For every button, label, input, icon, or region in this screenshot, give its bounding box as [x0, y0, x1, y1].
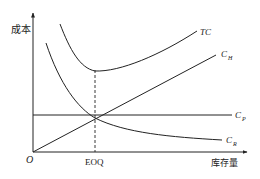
series-ch-label: C H — [221, 49, 233, 61]
eoq-cost-chart: 成本 O EOQ 库存量 TC C H C P C R — [0, 0, 260, 179]
svg-text:C: C — [221, 49, 228, 59]
series-cp-label: C P — [235, 110, 246, 122]
svg-text:R: R — [232, 141, 237, 147]
svg-text:P: P — [241, 116, 246, 122]
svg-text:C: C — [226, 135, 233, 145]
series-tc-line — [60, 24, 197, 71]
x-axis-label: 库存量 — [211, 157, 238, 168]
series-tc-label: TC — [200, 27, 212, 37]
series-cr-label: C R — [226, 135, 237, 147]
eoq-tick-label: EOQ — [85, 157, 104, 167]
origin-label: O — [26, 154, 33, 165]
y-axis-label: 成本 — [11, 23, 31, 35]
series-cr-line — [46, 43, 222, 140]
svg-text:H: H — [227, 55, 233, 61]
svg-text:C: C — [235, 110, 242, 120]
